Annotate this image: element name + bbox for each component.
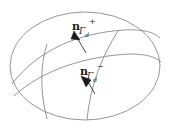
normal-minus-subscript: Γd [87,72,97,83]
normal-plus-subscript: Γd [79,27,89,38]
normal-minus-superscript: − [97,62,104,71]
normal-minus-subscript-index: d [93,76,97,83]
figure-container: nΓd+ nΓd− [0,0,171,134]
normal-minus-label: nΓd− [80,62,104,83]
normal-plus-label: nΓd+ [72,17,96,38]
normal-plus-superscript: + [89,17,96,26]
normal-plus-subscript-index: d [85,31,89,38]
